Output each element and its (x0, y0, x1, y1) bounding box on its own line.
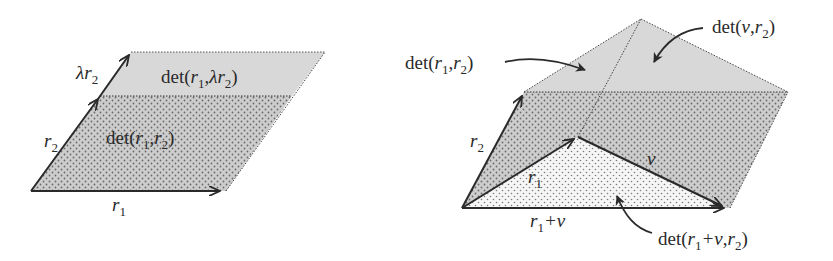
label-det-v-r2: det(v,r2) (712, 16, 775, 41)
label-r2: r2 (470, 130, 484, 155)
right-figure: r2 r1 v r1+v det(r1,r2) det(v,r2) det(r1… (405, 16, 788, 253)
label-det-r1-plus-v-r2: det(r1+v,r2) (658, 228, 748, 253)
label-v: v (647, 148, 656, 169)
label-r1: r1 (112, 194, 126, 219)
left-figure: λr2 r2 r1 det(r1,λr2) det(r1,r2) (31, 52, 325, 219)
diagram-canvas: λr2 r2 r1 det(r1,λr2) det(r1,r2) (0, 0, 833, 261)
label-det-r1-r2: det(r1,r2) (405, 52, 473, 77)
label-r1-plus-v: r1+v (530, 210, 566, 235)
label-r2: r2 (44, 130, 58, 155)
label-lambda-r2: λr2 (75, 62, 98, 87)
